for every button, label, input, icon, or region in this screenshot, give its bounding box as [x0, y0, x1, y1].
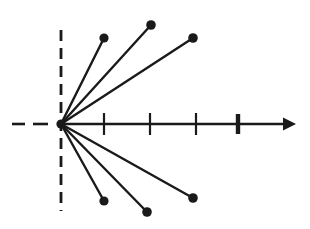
data-point-p4: [99, 196, 108, 205]
figure-background: [0, 0, 310, 229]
data-point-p6: [188, 193, 198, 203]
figure-canvas: [0, 0, 310, 229]
data-point-p1: [99, 33, 108, 42]
data-point-p3: [188, 33, 198, 43]
data-point-p2: [146, 20, 156, 30]
pole-zero-figure: [0, 0, 310, 229]
data-point-p5: [142, 207, 152, 217]
origin-marker: [56, 119, 65, 128]
